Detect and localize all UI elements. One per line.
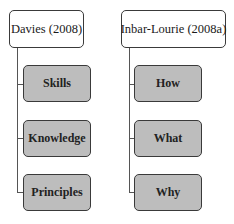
davies-child-knowledge: Knowledge bbox=[23, 120, 91, 157]
inbar-lourie-child-label: How bbox=[156, 76, 180, 91]
davies-child-principles: Principles bbox=[23, 174, 91, 211]
inbar-lourie-child-what: What bbox=[134, 120, 202, 157]
davies-child-label: Principles bbox=[31, 185, 82, 200]
davies-child-label: Skills bbox=[43, 76, 71, 91]
inbar-lourie-child-label: Why bbox=[156, 185, 181, 200]
inbar-lourie-trunk-connector bbox=[129, 48, 130, 193]
davies-root-label: Davies (2008) bbox=[11, 22, 82, 37]
inbar-lourie-child-why: Why bbox=[134, 174, 202, 211]
davies-trunk-connector bbox=[17, 48, 18, 193]
inbar-lourie-root-node: Inbar-Lourie (2008a) bbox=[121, 10, 226, 48]
inbar-lourie-child-how: How bbox=[134, 65, 202, 102]
inbar-lourie-child-label: What bbox=[154, 131, 183, 146]
davies-child-skills: Skills bbox=[23, 65, 91, 102]
inbar-lourie-root-label: Inbar-Lourie (2008a) bbox=[121, 22, 227, 37]
davies-child-label: Knowledge bbox=[28, 131, 85, 146]
davies-root-node: Davies (2008) bbox=[9, 10, 84, 48]
